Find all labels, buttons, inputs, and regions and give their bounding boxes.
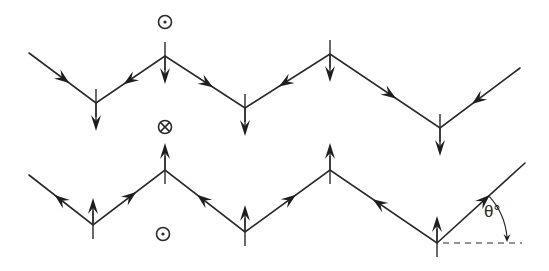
segment-arrow-icon	[197, 74, 213, 87]
segment-arrow-icon	[124, 71, 139, 84]
into-page-icon	[159, 121, 172, 134]
out-of-page-icon	[157, 228, 170, 241]
segment-arrow-icon	[380, 85, 396, 98]
top-zigzag-chain	[29, 40, 520, 156]
segment-arrow-icon	[279, 74, 295, 87]
bottom-zigzag-chain	[29, 143, 525, 257]
angle-annotation: θ°	[443, 196, 522, 243]
segment-arrow-icon	[373, 199, 388, 212]
zigzag-magnetic-moment-diagram: θ°	[0, 0, 549, 271]
zigzag-wire	[29, 53, 520, 128]
segment-arrow-icon	[281, 195, 296, 208]
field-direction-symbols	[157, 16, 172, 241]
diagram-canvas: θ°	[0, 0, 549, 271]
out-of-page-icon	[159, 16, 172, 29]
zigzag-wire	[29, 163, 525, 243]
theta-degree-label: θ°	[484, 202, 500, 221]
